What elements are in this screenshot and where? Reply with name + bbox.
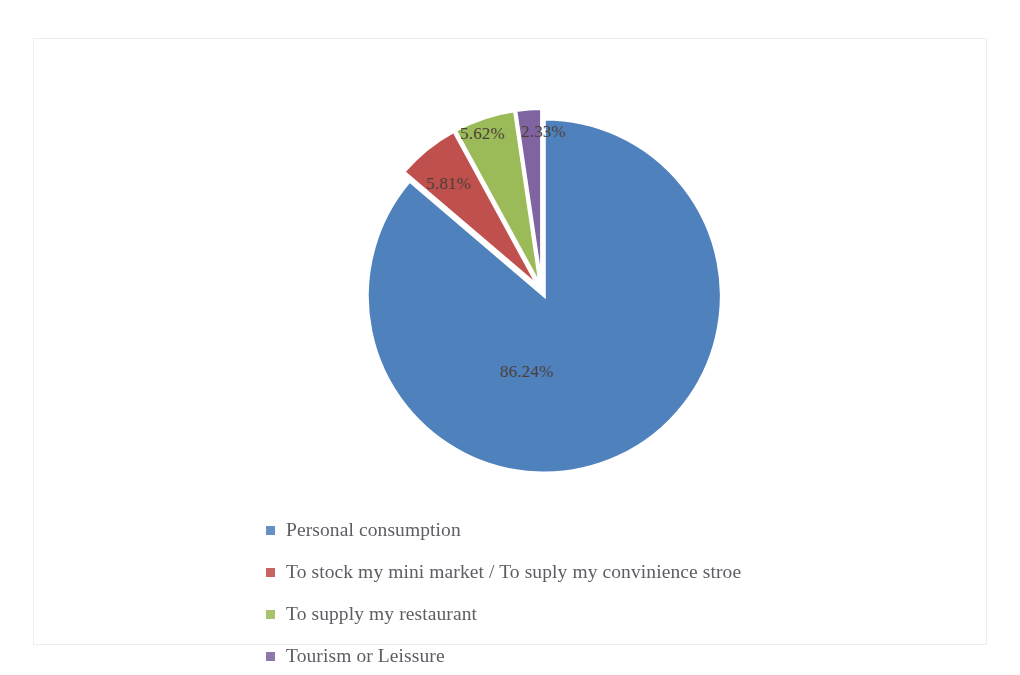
legend-color-swatch-icon [266, 568, 275, 577]
legend-color-swatch-icon [266, 652, 275, 661]
slice-data-label-personal-consumption: 86.24% [500, 362, 554, 382]
pie-chart-plot-area [334, 89, 754, 479]
legend-color-swatch-icon [266, 610, 275, 619]
scanned-page: 86.24% 5.81% 5.62% 2.33% Personal consum… [0, 0, 1020, 675]
legend-item-label: Personal consumption [286, 519, 461, 541]
slice-data-label-tourism: 2.33% [521, 122, 566, 142]
legend-item-label: To supply my restaurant [286, 603, 477, 625]
legend-item-label: To stock my mini market / To suply my co… [286, 561, 741, 583]
pie-chart-svg [334, 89, 754, 479]
slice-data-label-restaurant: 5.62% [460, 124, 505, 144]
legend-item-label: Tourism or Leissure [286, 645, 445, 667]
legend-item-personal-consumption: Personal consumption [266, 509, 741, 551]
legend-item-restaurant: To supply my restaurant [266, 593, 741, 635]
legend-color-swatch-icon [266, 526, 275, 535]
chart-frame: 86.24% 5.81% 5.62% 2.33% Personal consum… [33, 38, 987, 645]
legend-item-tourism: Tourism or Leissure [266, 635, 741, 675]
legend-item-mini-market: To stock my mini market / To suply my co… [266, 551, 741, 593]
pie-slice-group [367, 109, 721, 473]
chart-legend: Personal consumption To stock my mini ma… [266, 509, 741, 675]
slice-data-label-mini-market: 5.81% [426, 174, 471, 194]
